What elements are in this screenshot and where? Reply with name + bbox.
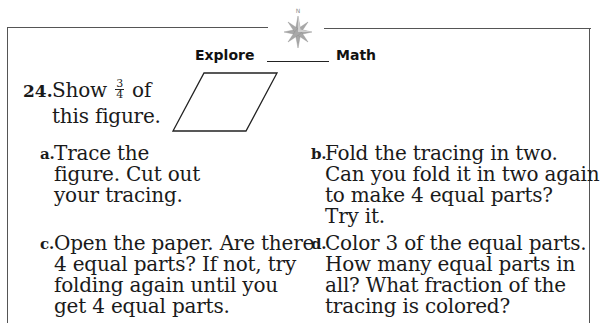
compass-north-label: N bbox=[296, 7, 301, 14]
step-a: a. Trace the figure. Cut out your tracin… bbox=[54, 143, 200, 206]
parallelogram-figure bbox=[165, 65, 285, 140]
fraction-denominator: 4 bbox=[115, 90, 124, 100]
compass-rose-icon: N bbox=[276, 6, 320, 54]
problem-line-2: this figure. bbox=[52, 103, 161, 129]
step-text: Open the paper. Are there 4 equal parts?… bbox=[54, 233, 314, 317]
frame-left-border bbox=[7, 27, 8, 323]
heading-math: Math bbox=[336, 47, 376, 63]
problem-text-of: of bbox=[132, 78, 151, 102]
step-text: Trace the figure. Cut out your tracing. bbox=[54, 143, 200, 206]
problem-number: 24. bbox=[23, 81, 53, 101]
fraction: 3 4 bbox=[115, 79, 124, 100]
step-text: Color 3 of the equal parts. How many equ… bbox=[325, 233, 586, 317]
step-text: Fold the tracing in two. Can you fold it… bbox=[325, 143, 599, 227]
step-marker: a. bbox=[40, 144, 55, 165]
problem-line-1: Show 3 4 of bbox=[52, 77, 161, 103]
frame-top-right-border bbox=[324, 28, 591, 29]
step-d: d. Color 3 of the equal parts. How many … bbox=[325, 233, 586, 317]
problem-text-show: Show bbox=[52, 78, 107, 102]
step-marker: b. bbox=[311, 144, 326, 165]
step-marker: d. bbox=[311, 234, 326, 255]
step-marker: c. bbox=[40, 234, 54, 255]
step-c: c. Open the paper. Are there 4 equal par… bbox=[54, 233, 314, 317]
problem-prompt: Show 3 4 of this figure. bbox=[52, 77, 161, 129]
heading-explore: Explore bbox=[195, 47, 254, 63]
step-b: b. Fold the tracing in two. Can you fold… bbox=[325, 143, 599, 227]
frame-top-left-border bbox=[7, 27, 268, 28]
heading-blank-line bbox=[267, 61, 329, 62]
